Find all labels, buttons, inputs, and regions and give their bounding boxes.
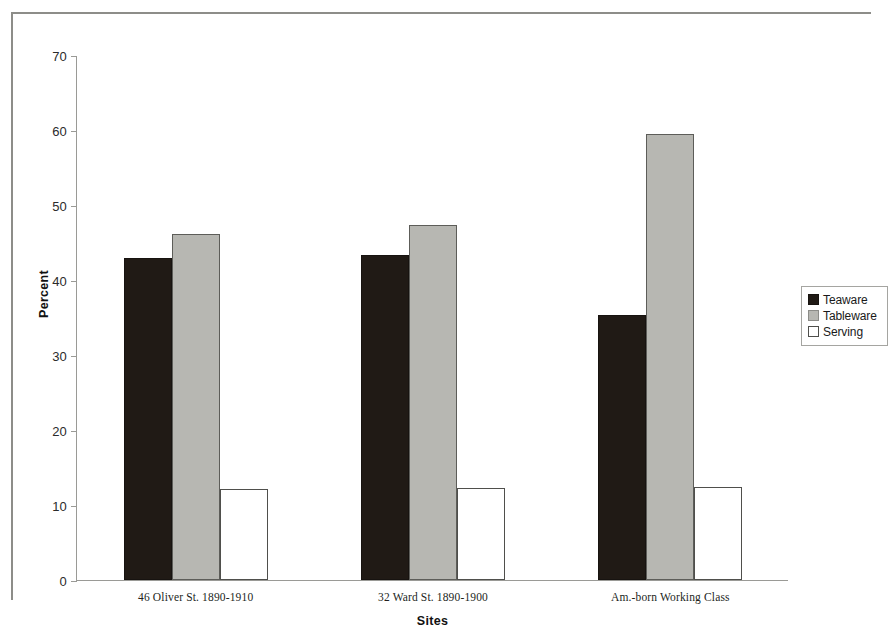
legend-item-serving: Serving bbox=[808, 324, 881, 339]
y-axis-tick-label: 40 bbox=[52, 274, 67, 289]
y-axis-tick-mark bbox=[71, 131, 77, 132]
legend-swatch-icon bbox=[808, 310, 819, 321]
legend-item-teaware: Teaware bbox=[808, 292, 881, 307]
x-axis-category-label: 46 Oliver St. 1890-1910 bbox=[138, 591, 253, 603]
y-axis-tick: 20 bbox=[52, 422, 77, 440]
x-axis-category-label: 32 Ward St. 1890-1900 bbox=[378, 591, 488, 603]
bar-tableware bbox=[172, 234, 220, 580]
figure-frame: Percent 010203040506070 46 Oliver St. 18… bbox=[11, 12, 871, 600]
y-axis-tick-label: 70 bbox=[52, 49, 67, 64]
x-axis-category-label: Am.-born Working Class bbox=[611, 591, 730, 603]
y-axis-tick-label: 10 bbox=[52, 499, 67, 514]
bar-teaware bbox=[598, 315, 646, 581]
bar-serving bbox=[220, 489, 268, 580]
bar-group bbox=[598, 56, 742, 580]
y-axis-tick-mark bbox=[71, 431, 77, 432]
y-axis-tick-label: 60 bbox=[52, 124, 67, 139]
y-axis-tick-mark bbox=[71, 506, 77, 507]
bar-serving bbox=[694, 487, 742, 580]
legend-label: Tableware bbox=[823, 309, 877, 323]
y-axis-tick: 10 bbox=[52, 497, 77, 515]
y-axis-tick-label: 50 bbox=[52, 199, 67, 214]
bar-serving bbox=[457, 488, 505, 580]
y-axis-title: Percent bbox=[37, 270, 51, 318]
plot-area: 010203040506070 46 Oliver St. 1890-19103… bbox=[76, 56, 788, 581]
bar-group bbox=[124, 56, 268, 580]
y-axis-tick-mark bbox=[71, 206, 77, 207]
y-axis-tick-mark bbox=[71, 281, 77, 282]
y-axis-tick: 70 bbox=[52, 47, 77, 65]
legend-label: Serving bbox=[823, 325, 863, 339]
y-axis-tick-mark bbox=[71, 356, 77, 357]
legend-swatch-icon bbox=[808, 294, 819, 305]
y-axis-tick-mark bbox=[71, 56, 77, 57]
y-axis-tick-label: 0 bbox=[60, 574, 67, 589]
y-axis-tick-label: 20 bbox=[52, 424, 67, 439]
y-axis-tick-label: 30 bbox=[52, 349, 67, 364]
bar-teaware bbox=[124, 258, 172, 581]
y-axis-tick: 40 bbox=[52, 272, 77, 290]
legend-label: Teaware bbox=[823, 293, 868, 307]
legend-item-tableware: Tableware bbox=[808, 308, 881, 323]
x-axis-title: Sites bbox=[417, 614, 448, 628]
y-axis-tick-mark bbox=[71, 581, 77, 582]
chart-legend: TeawareTablewareServing bbox=[801, 286, 888, 346]
legend-swatch-icon bbox=[808, 326, 819, 337]
y-axis-tick: 30 bbox=[52, 347, 77, 365]
y-axis-tick: 50 bbox=[52, 197, 77, 215]
bar-tableware bbox=[646, 134, 694, 580]
bar-tableware bbox=[409, 225, 457, 580]
bar-group bbox=[361, 56, 505, 580]
y-axis-tick: 60 bbox=[52, 122, 77, 140]
y-axis-tick: 0 bbox=[60, 572, 77, 590]
bar-teaware bbox=[361, 255, 409, 580]
